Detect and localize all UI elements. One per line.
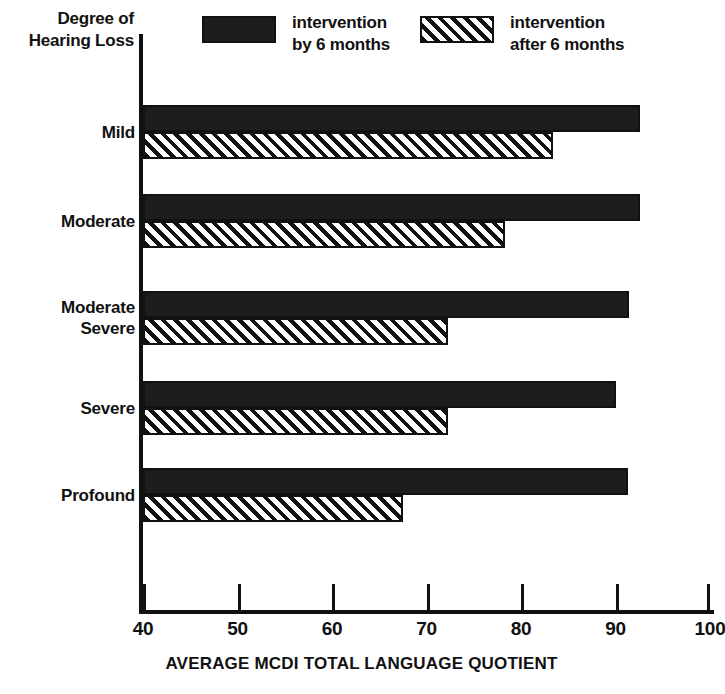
category-label-severe: Severe bbox=[0, 398, 135, 419]
legend-label-solid-line-1: intervention bbox=[292, 12, 390, 34]
bar-group bbox=[143, 291, 710, 345]
x-tick-label-100: 100 bbox=[695, 618, 725, 640]
category-label-line: Severe bbox=[0, 398, 135, 419]
bar-solid bbox=[143, 105, 640, 132]
category-label-mild: Mild bbox=[0, 122, 135, 143]
category-label-line: Moderate bbox=[0, 211, 135, 232]
x-tick-60 bbox=[332, 584, 335, 610]
x-tick-label-70: 70 bbox=[416, 618, 437, 640]
category-label-line: Moderate bbox=[0, 297, 135, 318]
bar-hatched bbox=[143, 221, 505, 248]
y-axis-title-line-2: Hearing Loss bbox=[12, 30, 134, 52]
x-tick-40 bbox=[143, 584, 146, 610]
y-axis-title: Degree of Hearing Loss bbox=[12, 8, 134, 52]
bar-hatched bbox=[143, 408, 448, 435]
bar-group bbox=[143, 468, 710, 522]
bar-solid bbox=[143, 291, 629, 318]
category-label-line: Profound bbox=[0, 485, 135, 506]
category-label-line: Mild bbox=[0, 122, 135, 143]
x-tick-100 bbox=[707, 584, 710, 610]
x-tick-label-40: 40 bbox=[133, 618, 154, 640]
x-tick-label-50: 50 bbox=[227, 618, 248, 640]
bar-solid bbox=[143, 468, 628, 495]
bar-group bbox=[143, 105, 710, 159]
y-axis-title-line-1: Degree of bbox=[12, 8, 134, 30]
bar-solid bbox=[143, 194, 640, 221]
x-tick-80 bbox=[521, 584, 524, 610]
bar-hatched bbox=[143, 132, 553, 159]
x-tick-label-90: 90 bbox=[605, 618, 626, 640]
x-tick-90 bbox=[616, 584, 619, 610]
bar-hatched bbox=[143, 318, 448, 345]
bar-group bbox=[143, 381, 710, 435]
x-tick-label-80: 80 bbox=[511, 618, 532, 640]
category-label-moderate-severe: ModerateSevere bbox=[0, 297, 135, 340]
x-tick-50 bbox=[238, 584, 241, 610]
plot-area bbox=[143, 34, 710, 610]
x-axis-label: AVERAGE MCDI TOTAL LANGUAGE QUOTIENT bbox=[0, 654, 723, 674]
category-label-profound: Profound bbox=[0, 485, 135, 506]
bar-solid bbox=[143, 381, 616, 408]
category-label-moderate: Moderate bbox=[0, 211, 135, 232]
x-tick-label-60: 60 bbox=[322, 618, 343, 640]
bar-hatched bbox=[143, 495, 403, 522]
x-tick-70 bbox=[427, 584, 430, 610]
bar-group bbox=[143, 194, 710, 248]
x-axis-line bbox=[139, 610, 714, 614]
category-label-line: Severe bbox=[0, 318, 135, 339]
legend-label-hatched-line-1: intervention bbox=[510, 12, 624, 34]
